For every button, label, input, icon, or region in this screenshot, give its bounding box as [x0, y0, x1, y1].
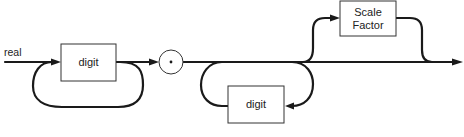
entry-label: real: [4, 46, 22, 58]
digit-loop-2-right: [292, 62, 313, 106]
exit-arrowhead-icon: [452, 59, 463, 66]
digit-box-1-label: digit: [61, 56, 116, 68]
decimal-point-dot: [170, 61, 173, 64]
scale-factor-branch-in: [303, 18, 333, 62]
scale-factor-branch-out: [396, 18, 432, 62]
arrowhead-icon: [330, 15, 340, 22]
arrowhead-icon: [285, 103, 294, 110]
scale-factor-label-line2: Factor: [340, 19, 396, 31]
arrowhead-icon: [149, 59, 159, 66]
digit-box-2-label: digit: [228, 98, 284, 110]
scale-factor-label-line1: Scale: [340, 6, 396, 18]
digit-loop-2-left: [201, 62, 228, 106]
